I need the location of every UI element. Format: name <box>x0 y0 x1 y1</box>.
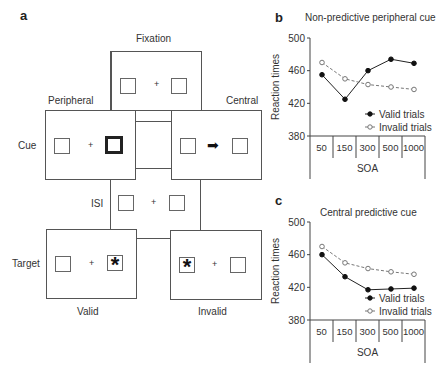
fixation-cross: + <box>151 197 156 207</box>
x-tick-label: 150 <box>337 326 353 337</box>
legend-entry: Invalid trials <box>379 306 432 317</box>
valid-trials-line <box>322 59 414 99</box>
target-label: Target <box>12 258 40 269</box>
y-tick-label: 460 <box>288 65 305 76</box>
central-cue-screen: ➡ <box>171 110 262 180</box>
legend-entry: Valid trials <box>379 109 424 120</box>
data-point <box>412 87 417 92</box>
cued-box-highlighted <box>105 136 123 154</box>
left-placeholder-box <box>120 78 136 94</box>
target-box: * <box>107 255 123 271</box>
target-asterisk: * <box>107 257 123 273</box>
chart-c: 380420460500501503005001000SOAReaction t… <box>260 210 446 371</box>
connector-line <box>137 238 171 239</box>
y-tick-label: 380 <box>288 315 305 326</box>
data-point <box>389 85 394 90</box>
right-placeholder-box <box>171 78 187 94</box>
data-point <box>366 68 371 73</box>
data-point <box>343 261 348 266</box>
data-point <box>320 60 325 65</box>
data-point <box>412 286 417 291</box>
data-point <box>389 57 394 62</box>
y-tick-label: 420 <box>288 282 305 293</box>
valid-trials-line <box>322 255 414 290</box>
valid-target-screen: + * <box>46 229 137 299</box>
connector-line <box>136 121 171 122</box>
right-placeholder-box <box>169 195 185 211</box>
invalid-label: Invalid <box>198 306 227 317</box>
peripheral-label: Peripheral <box>48 95 94 106</box>
data-point <box>343 77 348 82</box>
data-point <box>343 97 348 102</box>
data-point <box>412 272 417 277</box>
y-tick-label: 420 <box>288 98 305 109</box>
connector-line <box>110 180 111 230</box>
data-point <box>320 252 325 257</box>
left-placeholder-box <box>54 138 70 154</box>
fixation-cross: + <box>154 79 159 89</box>
data-point <box>343 274 348 279</box>
x-tick-label: 150 <box>337 142 353 153</box>
fixation-cross: + <box>89 258 94 268</box>
fixation-cross: + <box>212 259 217 269</box>
x-tick-label: 1000 <box>403 326 424 337</box>
data-point <box>366 287 371 292</box>
fixation-label: Fixation <box>136 33 171 44</box>
y-axis-label: Reaction times <box>270 238 281 304</box>
data-point <box>389 287 394 292</box>
target-asterisk: * <box>179 259 195 275</box>
x-axis-label: SOA <box>357 163 378 174</box>
x-tick-label: 1000 <box>403 142 424 153</box>
left-placeholder-box <box>55 256 71 272</box>
fixation-cross: + <box>88 140 93 150</box>
data-point <box>366 266 371 271</box>
target-box: * <box>179 257 195 273</box>
panel-a-letter: a <box>20 8 27 23</box>
data-point <box>412 61 417 66</box>
data-point <box>389 270 394 275</box>
fixation-screen: + <box>111 51 202 111</box>
peripheral-cue-screen: + <box>45 110 136 180</box>
x-axis-label: SOA <box>357 347 378 358</box>
invalid-target-screen: * + <box>170 230 262 300</box>
data-point <box>320 244 325 249</box>
y-axis-label: Reaction times <box>270 54 281 120</box>
left-placeholder-box <box>180 138 196 154</box>
cue-label: Cue <box>18 140 36 151</box>
y-tick-label: 500 <box>288 33 305 44</box>
valid-label: Valid <box>77 306 99 317</box>
right-placeholder-box <box>232 138 248 154</box>
x-tick-label: 300 <box>360 326 376 337</box>
x-tick-label: 300 <box>360 142 376 153</box>
connector-line <box>200 180 201 230</box>
panel-b-title: Non-predictive peripheral cue <box>305 12 436 23</box>
connector-line <box>136 168 171 169</box>
isi-label: ISI <box>91 198 103 209</box>
legend-entry: Invalid trials <box>379 122 432 133</box>
y-tick-label: 500 <box>288 217 305 228</box>
x-tick-label: 50 <box>316 142 327 153</box>
x-tick-label: 500 <box>383 142 399 153</box>
arrow-right-icon: ➡ <box>207 138 219 152</box>
left-placeholder-box <box>118 195 134 211</box>
panel-c-letter: c <box>275 193 282 208</box>
data-point <box>320 72 325 77</box>
central-label: Central <box>226 95 258 106</box>
x-tick-label: 500 <box>383 326 399 337</box>
right-placeholder-box <box>230 257 246 273</box>
y-tick-label: 460 <box>288 249 305 260</box>
chart-b: 380420460500501503005001000SOAReaction t… <box>260 28 446 183</box>
legend-entry: Valid trials <box>379 293 424 304</box>
x-tick-label: 50 <box>316 326 327 337</box>
panel-b-letter: b <box>275 10 283 25</box>
y-tick-label: 380 <box>288 131 305 142</box>
data-point <box>366 82 371 87</box>
